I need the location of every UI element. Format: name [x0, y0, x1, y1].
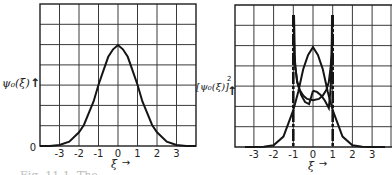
svg-text:-2: -2	[74, 148, 84, 159]
svg-text:ψ₀(ξ): ψ₀(ξ)	[2, 77, 30, 90]
svg-text:2: 2	[349, 149, 355, 160]
up-arrow-icon: ↑	[30, 76, 40, 90]
svg-text:ξ: ξ	[308, 160, 315, 173]
svg-text:-3: -3	[249, 149, 259, 160]
svg-text:ξ: ξ	[111, 158, 118, 171]
svg-text:0: 0	[310, 149, 316, 160]
svg-text:[ψ₀(ξ)]: [ψ₀(ξ)]	[196, 81, 229, 92]
left-chart: 0 -3 -2 -1 0 1 2 3 ξ → ψ₀(ξ) ↑	[2, 4, 196, 171]
left-x-axis-label: ξ →	[111, 157, 130, 171]
superscript-two: 2	[227, 75, 231, 83]
right-psi0-squared-curve	[245, 47, 385, 147]
right-y-axis-label: [ψ₀(ξ)] 2 ↑	[196, 75, 237, 98]
right-chart: -3 -2 -1 0 1 2 3 ξ → [ψ₀(ξ)] 2 ↑	[196, 5, 392, 173]
right-arrow-icon: →	[319, 158, 327, 169]
svg-text:-3: -3	[55, 148, 65, 159]
svg-text:3: 3	[369, 149, 375, 160]
left-y-axis-label: ψ₀(ξ) ↑	[2, 76, 40, 90]
left-y-zero-label: 0	[30, 142, 36, 153]
up-arrow-icon: ↑	[227, 84, 237, 98]
figure-canvas: 0 -3 -2 -1 0 1 2 3 ξ → ψ₀(ξ) ↑	[0, 0, 392, 175]
left-chart-grid	[40, 4, 196, 146]
right-arrow-icon: →	[122, 157, 130, 168]
right-x-axis-label: ξ →	[308, 158, 327, 173]
svg-text:3: 3	[173, 148, 179, 159]
right-chart-grid	[235, 5, 392, 147]
svg-text:1: 1	[330, 149, 336, 160]
svg-text:-1: -1	[288, 149, 298, 160]
svg-text:-2: -2	[269, 149, 279, 160]
svg-text:-1: -1	[94, 148, 104, 159]
figure-caption: Fig. 11-1. The	[20, 169, 98, 175]
svg-text:1: 1	[134, 148, 140, 159]
right-x-ticks: -3 -2 -1 0 1 2 3	[249, 149, 375, 160]
left-x-ticks: -3 -2 -1 0 1 2 3	[55, 148, 180, 159]
svg-text:2: 2	[154, 148, 160, 159]
